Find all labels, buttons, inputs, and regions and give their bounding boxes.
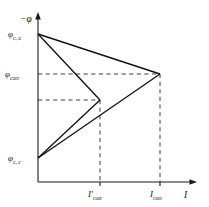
phi-corr-subscript: corr xyxy=(10,75,19,81)
label-phi-c-a: φc, a xyxy=(8,29,21,41)
x-axis-label: I xyxy=(183,190,188,200)
label-i-corr-prime: I′corr xyxy=(87,189,102,201)
i-corr-prime-subscript: corr xyxy=(93,195,102,201)
anodic-branch-inner xyxy=(38,100,100,158)
i-corr-subscript: corr xyxy=(153,195,162,201)
phi-c-c-subscript: c, c xyxy=(13,159,21,165)
y-axis-phi-symbol: φ xyxy=(26,14,31,24)
label-phi-corr: φcorr xyxy=(5,69,19,81)
polarization-diagram: −φ I φc, a φcorr φc, c I′corr Icorr xyxy=(0,0,209,207)
phi-c-a-subscript: c, a xyxy=(13,35,21,41)
y-axis-label: −φ xyxy=(20,14,32,24)
y-axis-arrowhead xyxy=(35,12,41,20)
label-phi-c-c: φc, c xyxy=(8,153,21,165)
label-i-corr: Icorr xyxy=(149,189,162,201)
anodic-branch-outer xyxy=(38,74,160,158)
x-axis-arrowhead xyxy=(190,179,198,185)
